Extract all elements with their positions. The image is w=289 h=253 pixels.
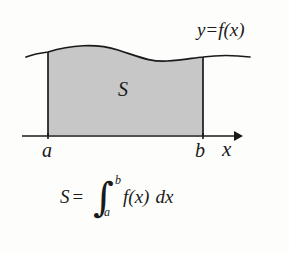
formula-differential: dx (155, 187, 173, 206)
formula-integrand: f(x) (123, 187, 149, 206)
curve-label: y=f(x) (197, 20, 245, 39)
x-axis-label: x (222, 139, 231, 160)
area-integral-formula: S = ∫ b a f(x) dx (60, 176, 173, 216)
integral-lower-limit: a (104, 206, 110, 218)
x-axis-arrowhead-icon (234, 131, 243, 141)
curve-label-close-paren: ) (238, 19, 244, 40)
curve-label-variable: x (230, 19, 238, 40)
curve-label-equals: = (206, 19, 217, 40)
integrand-close-paren: ) (143, 186, 149, 207)
region-label-s: S (118, 79, 128, 99)
tick-label-a: a (42, 140, 52, 160)
curve-label-y: y (197, 19, 205, 40)
formula-area-symbol: S (60, 187, 70, 206)
formula-equals: = (73, 187, 84, 206)
integral-area-figure: y=f(x) S a b x S = ∫ b a f(x) dx (0, 0, 289, 253)
integral-group: ∫ b a (93, 176, 117, 216)
integral-upper-limit: b (115, 174, 121, 186)
integrand-variable: x (135, 186, 143, 207)
tick-label-b: b (195, 140, 205, 160)
